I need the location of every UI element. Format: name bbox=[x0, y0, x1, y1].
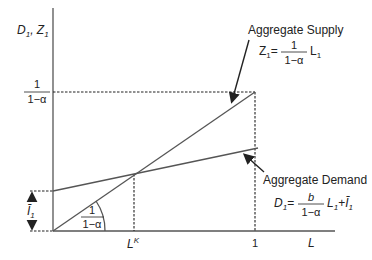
intercept-label: Ī1 bbox=[27, 204, 35, 220]
keynesian-cross-diagram: D1, Z1 1 1−α Ī1 1 1−α LK 1 L Aggregate S… bbox=[0, 0, 372, 260]
demand-title: Aggregate Demand bbox=[263, 173, 367, 187]
x-tick-one: 1 bbox=[252, 237, 258, 249]
demand-frac-num: b bbox=[308, 191, 314, 203]
y-tick-denominator: 1−α bbox=[28, 93, 48, 105]
demand-equation-lhs: D1= bbox=[274, 196, 294, 212]
slope-numerator: 1 bbox=[89, 204, 95, 216]
aggregate-supply-line bbox=[53, 92, 255, 231]
supply-equation-lhs: Z1= bbox=[259, 44, 278, 60]
aggregate-demand-line bbox=[53, 148, 258, 191]
y-axis-label: D1, Z1 bbox=[17, 23, 49, 39]
supply-frac-num: 1 bbox=[291, 39, 297, 51]
demand-frac-den: 1−α bbox=[302, 206, 322, 218]
supply-equation-rhs: L1 bbox=[310, 44, 322, 60]
x-tick-lk: LK bbox=[127, 236, 140, 251]
supply-title: Aggregate Supply bbox=[248, 23, 343, 37]
x-axis-label: L bbox=[308, 236, 315, 250]
supply-frac-den: 1−α bbox=[285, 54, 305, 66]
demand-equation-rhs: L1+Ī1 bbox=[327, 196, 353, 212]
slope-denominator: 1−α bbox=[83, 218, 103, 230]
y-tick-numerator: 1 bbox=[34, 78, 40, 90]
